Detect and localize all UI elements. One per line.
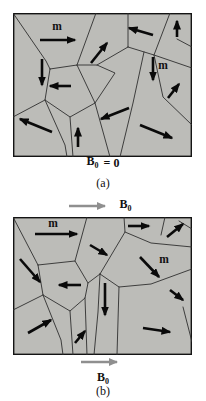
field-zero-label: B0 = 0: [0, 155, 206, 170]
field-arrow-top-icon: [68, 201, 114, 211]
b0-top-symbol: B0: [119, 198, 131, 213]
field-arrow-bottom-icon: [80, 357, 126, 367]
caption-b: (b): [0, 384, 206, 399]
magnetic-domains-figure: mm B0 = 0 (a) B0 mm B0 (b): [0, 0, 206, 401]
moment-label: m: [159, 253, 169, 265]
b0-zero-value: = 0: [104, 157, 120, 169]
b0-zero-symbol: B0: [87, 155, 99, 170]
moment-label: m: [48, 217, 58, 229]
applied-field-bottom: B0: [0, 357, 206, 386]
grain-region: [14, 218, 192, 355]
moment-label: m: [158, 59, 168, 71]
applied-field-top: B0: [0, 198, 203, 213]
domain-panel-b: mm: [13, 217, 192, 355]
domain-panel-a: mm: [13, 13, 192, 157]
moment-label: m: [52, 20, 62, 32]
caption-a: (a): [0, 176, 206, 191]
